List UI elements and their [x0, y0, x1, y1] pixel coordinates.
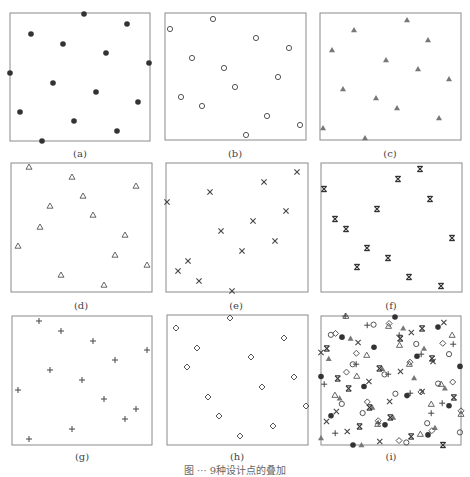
- barred-x-marker: [343, 226, 348, 231]
- open-circle-marker: [232, 84, 237, 89]
- filled-triangle-marker: [340, 86, 346, 91]
- filled-triangle-marker: [425, 37, 431, 42]
- open-triangle-marker: [332, 392, 338, 397]
- filled-triangle-marker: [320, 125, 326, 130]
- open-triangle-marker: [133, 183, 139, 188]
- open-circle-marker: [339, 401, 344, 406]
- panel-frame-f: [321, 163, 462, 292]
- open-circle-marker: [425, 421, 430, 426]
- plus-marker: [101, 396, 107, 402]
- x-marker: [324, 419, 329, 424]
- filled-triangle-marker: [394, 105, 400, 110]
- panel-label-c: (c): [360, 148, 420, 159]
- x-marker: [164, 199, 169, 204]
- barred-x-marker: [451, 395, 456, 400]
- open-diamond-marker: [396, 438, 402, 444]
- x-marker: [261, 179, 266, 184]
- x-marker: [366, 379, 371, 384]
- filled-triangle-marker: [404, 17, 410, 22]
- open-diamond-marker: [237, 433, 243, 439]
- barred-x-marker: [395, 176, 400, 181]
- panel-label-d: (d): [51, 300, 111, 311]
- open-triangle-marker: [112, 252, 118, 257]
- filled-circle-marker: [114, 128, 120, 134]
- open-circle-marker: [167, 26, 172, 31]
- plus-marker: [26, 436, 32, 442]
- open-diamond-marker: [259, 384, 265, 390]
- filled-circle-marker: [318, 374, 324, 380]
- x-marker: [441, 320, 446, 325]
- filled-circle-marker: [339, 334, 345, 340]
- open-triangle-marker: [47, 203, 53, 208]
- open-diamond-marker: [440, 340, 446, 346]
- x-marker: [229, 288, 234, 293]
- filled-triangle-marker: [351, 27, 357, 32]
- barred-x-marker: [419, 326, 424, 331]
- open-circle-marker: [178, 94, 183, 99]
- plus-marker: [133, 406, 139, 412]
- x-marker: [283, 208, 288, 213]
- barred-x-marker: [335, 376, 340, 381]
- x-marker: [272, 238, 277, 243]
- barred-x-marker: [438, 283, 443, 288]
- panel-frame-h: [167, 315, 308, 445]
- plus-marker: [36, 318, 42, 324]
- filled-circle-marker: [382, 422, 388, 428]
- filled-triangle-marker: [362, 135, 368, 140]
- panel-label-f: (f): [361, 300, 421, 311]
- plus-marker: [439, 400, 445, 406]
- panel-label-i: (i): [361, 451, 421, 462]
- open-triangle-marker: [428, 401, 434, 406]
- panel-label-g: (g): [52, 451, 112, 462]
- open-diamond-marker: [343, 369, 349, 375]
- filled-circle-marker: [39, 138, 45, 144]
- filled-circle-marker: [71, 118, 77, 124]
- barred-x-marker: [427, 196, 432, 201]
- open-circle-marker: [210, 16, 215, 21]
- filled-triangle-marker: [446, 76, 452, 81]
- x-marker: [207, 189, 212, 194]
- barred-x-marker: [417, 166, 422, 171]
- open-diamond-marker: [173, 325, 179, 331]
- open-triangle-marker: [417, 431, 423, 436]
- filled-circle-marker: [60, 41, 66, 47]
- filled-circle-marker: [425, 432, 431, 438]
- open-circle-marker: [404, 440, 409, 445]
- x-marker: [377, 439, 382, 444]
- filled-circle-marker: [435, 324, 441, 330]
- panel-frame-b: [165, 13, 306, 140]
- filled-triangle-marker: [318, 435, 324, 440]
- filled-circle-marker: [371, 344, 377, 350]
- open-triangle-marker: [122, 232, 128, 237]
- open-triangle-marker: [80, 193, 86, 198]
- open-triangle-marker: [354, 373, 360, 378]
- open-circle-marker: [275, 74, 280, 79]
- plus-marker: [144, 347, 150, 353]
- x-marker: [355, 340, 360, 345]
- open-diamond-marker: [205, 394, 211, 400]
- filled-circle-marker: [135, 99, 141, 105]
- barred-x-marker: [321, 186, 326, 191]
- open-diamond-marker: [450, 379, 456, 385]
- open-diamond-marker: [364, 399, 370, 405]
- plus-marker: [364, 322, 370, 328]
- open-circle-marker: [360, 410, 365, 415]
- filled-circle-marker: [146, 60, 152, 66]
- open-circle-marker: [371, 322, 376, 327]
- x-marker: [409, 330, 414, 335]
- filled-circle-marker: [392, 314, 398, 320]
- barred-x-marker: [332, 216, 337, 221]
- plus-marker: [79, 377, 85, 383]
- open-diamond-marker: [353, 350, 359, 356]
- x-marker: [250, 218, 255, 223]
- open-diamond-marker: [194, 345, 200, 351]
- barred-x-marker: [346, 386, 351, 391]
- open-triangle-marker: [101, 282, 107, 287]
- filled-triangle-marker: [383, 57, 389, 62]
- barred-x-marker: [354, 264, 359, 269]
- x-marker: [398, 369, 403, 374]
- open-triangle-marker: [26, 164, 32, 169]
- panel-frame-e: [166, 163, 308, 292]
- filled-circle-marker: [7, 70, 13, 76]
- open-diamond-marker: [270, 423, 276, 429]
